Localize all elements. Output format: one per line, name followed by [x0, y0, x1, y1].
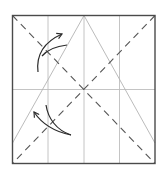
upper-arrow-icon — [38, 34, 62, 72]
origami-diagram — [0, 0, 165, 173]
lower-arrow-origin-curve — [46, 105, 71, 135]
lower-arrow-icon — [34, 112, 71, 135]
lower-fold-arrow — [34, 105, 71, 135]
